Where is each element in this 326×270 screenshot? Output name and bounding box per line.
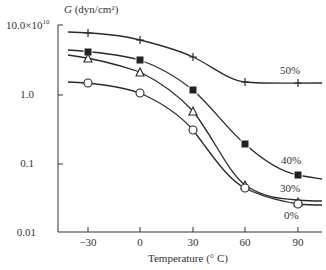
markers-50-percent [84, 29, 302, 87]
chart-plot-area [0, 0, 326, 270]
y-axis-symbol: G [64, 3, 72, 15]
circle-marker [241, 184, 249, 192]
y-axis-title: G (dyn/cm²) [64, 3, 118, 15]
x-tick-label-90: 90 [283, 236, 313, 248]
square-marker [294, 171, 302, 179]
series-label-30: 30% [280, 182, 300, 194]
markers-0-percent [84, 79, 302, 208]
x-tick-label-0: 0 [125, 236, 155, 248]
square-marker [136, 56, 144, 64]
triangle-marker [136, 68, 144, 76]
series-label-40: 40% [281, 154, 301, 166]
x-axis-title: Temperature (° C) [148, 252, 228, 264]
series-label-50: 50% [280, 64, 300, 76]
circle-marker [294, 200, 302, 208]
square-marker [241, 140, 249, 148]
plus-marker [136, 36, 144, 44]
circle-marker [189, 126, 197, 134]
circle-marker [136, 89, 144, 97]
series-label-0: 0% [284, 209, 299, 221]
y-tick-top-exponent: 10 [42, 18, 49, 26]
plus-marker [294, 79, 302, 87]
x-tick-label-30: 30 [178, 236, 208, 248]
x-tick-label-minus30: −30 [73, 236, 103, 248]
plus-marker [241, 78, 249, 86]
y-tick-label-0-1: 0.1 [0, 157, 34, 169]
y-axis-units: (dyn/cm²) [72, 3, 118, 15]
y-tick-label-top: 10.0×1010 [6, 18, 49, 31]
y-tick-label-0-01: 0.01 [0, 226, 36, 238]
circle-marker [84, 79, 92, 87]
plus-marker [189, 53, 197, 61]
square-marker [189, 86, 197, 94]
plus-marker [84, 29, 92, 37]
x-tick-label-60: 60 [230, 236, 260, 248]
y-tick-label-1: 1.0 [0, 88, 34, 100]
y-tick-top-main: 10.0×10 [6, 19, 42, 31]
